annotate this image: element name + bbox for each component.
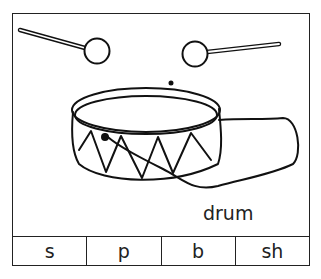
option-p[interactable]: p <box>87 237 161 265</box>
option-sh[interactable]: sh <box>236 237 309 265</box>
letter-options: s p b sh <box>13 236 309 265</box>
target-word: drum <box>203 202 253 224</box>
phonics-card: drum s p b sh <box>12 13 310 266</box>
drum-illustration-icon <box>13 14 311 236</box>
option-s[interactable]: s <box>13 237 87 265</box>
option-b[interactable]: b <box>162 237 236 265</box>
drum-picture <box>13 14 309 236</box>
